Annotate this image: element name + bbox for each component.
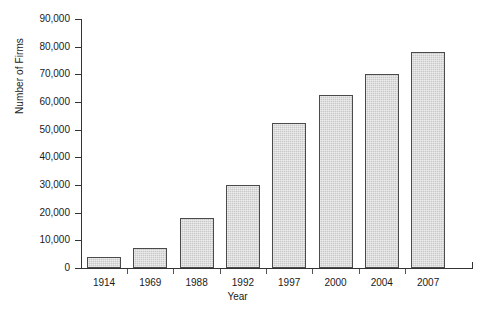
bar <box>411 52 445 268</box>
y-axis-tick-label: 80,000 <box>0 42 70 52</box>
x-axis-title-container: Year <box>0 291 493 302</box>
x-axis-tick <box>266 269 267 274</box>
bar <box>133 248 167 268</box>
x-axis-tick-label: 2007 <box>398 277 458 289</box>
y-axis-tick-label: 10,000 <box>0 235 70 245</box>
x-axis-tick <box>173 269 174 274</box>
bar <box>87 257 121 268</box>
x-axis-tick <box>405 269 406 274</box>
y-axis-tick <box>75 102 81 103</box>
bar <box>272 123 306 268</box>
y-axis-tick-label: 70,000 <box>0 69 70 79</box>
x-axis-tick <box>127 269 128 274</box>
y-axis-tick <box>75 268 81 269</box>
y-axis-tick-label: 60,000 <box>0 97 70 107</box>
bar <box>180 218 214 268</box>
y-axis-tick <box>75 213 81 214</box>
bar-chart-figure: Number of Firms 010,00020,00030,00040,00… <box>0 0 493 317</box>
y-axis-tick <box>75 47 81 48</box>
y-axis-line <box>81 19 82 269</box>
x-axis-tick <box>359 269 360 274</box>
y-axis-tick <box>75 240 81 241</box>
y-axis-tick-label: 30,000 <box>0 180 70 190</box>
x-axis-title: Year <box>227 291 247 302</box>
bar <box>226 185 260 268</box>
y-axis-tick <box>75 157 81 158</box>
y-axis-tick-label: 50,000 <box>0 125 70 135</box>
y-axis-tick-label: 0 <box>0 263 70 273</box>
y-axis-tick <box>75 185 81 186</box>
y-axis-tick-label: 40,000 <box>0 152 70 162</box>
x-axis-line <box>81 268 473 269</box>
y-axis-tick <box>75 130 81 131</box>
x-axis-right-cap <box>472 262 473 269</box>
y-axis-tick <box>75 74 81 75</box>
x-axis-tick <box>220 269 221 274</box>
x-axis-tick <box>312 269 313 274</box>
y-axis-tick-label: 90,000 <box>0 14 70 24</box>
y-axis-tick-label: 20,000 <box>0 208 70 218</box>
bar <box>365 74 399 268</box>
bar <box>319 95 353 268</box>
y-axis-tick <box>75 19 81 20</box>
